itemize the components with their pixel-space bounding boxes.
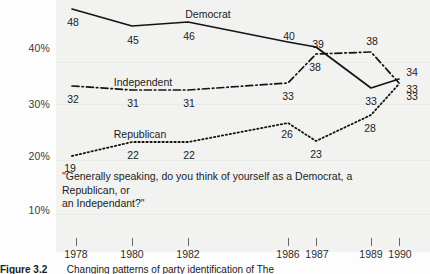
point-label-republican-1989: 28 <box>364 122 376 134</box>
point-label-independent-1978: 32 <box>67 93 79 105</box>
point-label-independent-1980: 31 <box>127 97 139 109</box>
figure-caption-label: Figure 3.2 <box>0 264 47 274</box>
point-label-independent-1989: 38 <box>366 35 378 47</box>
point-label-democrat-1990: 34 <box>406 66 418 78</box>
point-label-democrat-1987: 39 <box>312 38 324 50</box>
series-label-independent: Independent <box>114 76 172 88</box>
series-label-democrat: Democrat <box>185 8 231 20</box>
point-label-republican-1982: 22 <box>183 149 195 161</box>
point-label-republican-1987: 23 <box>310 148 322 160</box>
series-label-republican: Republican <box>114 128 167 140</box>
x-tick-label-1987: 1987 <box>305 248 328 260</box>
x-tick-label-1978: 1978 <box>64 248 87 260</box>
x-tick-label-1980: 1980 <box>120 248 143 260</box>
point-label-democrat-1986: 40 <box>283 30 295 42</box>
survey-question-line-2: an Independant?" <box>62 197 392 211</box>
point-label-republican-1986: 26 <box>281 128 293 140</box>
x-tick-1982 <box>188 238 189 246</box>
figure-container: 40% 30% 20% 10% Democrat Independent Rep… <box>0 0 430 274</box>
point-label-republican-1980: 22 <box>127 149 139 161</box>
x-tick-1986 <box>288 238 289 246</box>
point-label-democrat-1980: 45 <box>127 34 139 46</box>
x-tick-1989 <box>371 238 372 246</box>
series-line-republican <box>72 84 399 156</box>
x-tick-label-1986: 1986 <box>276 248 299 260</box>
figure-caption: Figure 3.2 Changing patterns of party id… <box>0 264 430 274</box>
point-label-independent-1987: 38 <box>309 61 321 73</box>
point-label-independent-1982: 31 <box>183 97 195 109</box>
x-tick-1978 <box>76 238 77 246</box>
point-label-republican-1990: 33 <box>406 90 418 102</box>
point-label-independent-1986: 33 <box>282 90 294 102</box>
x-tick-1990 <box>399 238 400 246</box>
x-tick-label-1982: 1982 <box>176 248 199 260</box>
x-tick-1980 <box>132 238 133 246</box>
figure-caption-inner: Figure 3.2 Changing patterns of party id… <box>0 264 430 274</box>
point-label-democrat-1978: 48 <box>67 16 79 28</box>
point-label-democrat-1989: 33 <box>365 95 377 107</box>
x-tick-label-1989: 1989 <box>359 248 382 260</box>
point-label-democrat-1982: 46 <box>183 30 195 42</box>
survey-question-line-1: "Generally speaking, do you think of you… <box>62 170 392 197</box>
x-tick-1987 <box>316 238 317 246</box>
survey-question: "Generally speaking, do you think of you… <box>62 170 392 211</box>
figure-caption-text: Changing patterns of party identificatio… <box>67 264 274 274</box>
x-tick-label-1990: 1990 <box>388 248 411 260</box>
